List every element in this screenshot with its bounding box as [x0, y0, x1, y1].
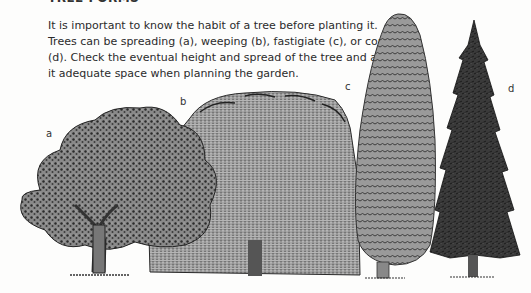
- tree-forms-illustration: [0, 0, 531, 293]
- tree-label-c: c: [345, 81, 351, 92]
- tree-label-b: b: [180, 96, 186, 107]
- tree-label-a: a: [46, 128, 52, 139]
- conical-tree: [430, 20, 520, 277]
- fastigiate-tree: [355, 14, 435, 278]
- tree-label-d: d: [508, 83, 514, 94]
